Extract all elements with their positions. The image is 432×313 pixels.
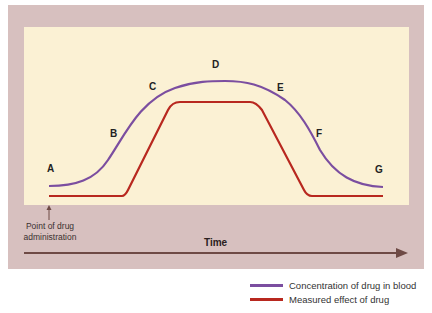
administration-note-line2: administration [14, 232, 86, 243]
effect-curve [49, 102, 383, 196]
label-e: E [277, 82, 284, 93]
administration-arrowhead [47, 205, 52, 210]
legend-label-effect: Measured effect of drug [289, 294, 389, 305]
label-g: G [375, 164, 383, 175]
legend-label-concentration: Concentration of drug in blood [289, 280, 416, 291]
label-a: A [47, 163, 54, 174]
administration-note: Point of drug administration [14, 221, 86, 243]
time-axis-arrowhead-icon [396, 248, 408, 258]
label-f: F [316, 128, 322, 139]
legend-item-effect: Measured effect of drug [250, 294, 389, 305]
label-d: D [212, 59, 219, 70]
concentration-curve [49, 81, 383, 187]
legend-item-concentration: Concentration of drug in blood [250, 280, 416, 291]
legend-swatch-effect [250, 298, 283, 301]
label-b: B [110, 128, 117, 139]
time-axis-label: Time [204, 237, 227, 248]
label-c: C [149, 81, 156, 92]
legend-swatch-concentration [250, 284, 283, 287]
curves-svg [0, 0, 432, 313]
administration-note-line1: Point of drug [14, 221, 86, 232]
